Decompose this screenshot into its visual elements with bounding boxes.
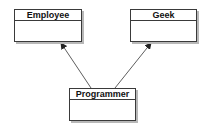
class-box-employee[interactable]: Employee — [14, 9, 82, 42]
class-name-programmer: Programmer — [70, 89, 135, 100]
arrow-programmer-to-geek — [115, 43, 151, 88]
class-name-employee: Employee — [15, 10, 81, 21]
class-name-geek: Geek — [131, 10, 196, 21]
arrow-programmer-to-employee — [61, 43, 91, 88]
class-box-geek[interactable]: Geek — [130, 9, 197, 42]
class-box-programmer[interactable]: Programmer — [69, 88, 136, 121]
